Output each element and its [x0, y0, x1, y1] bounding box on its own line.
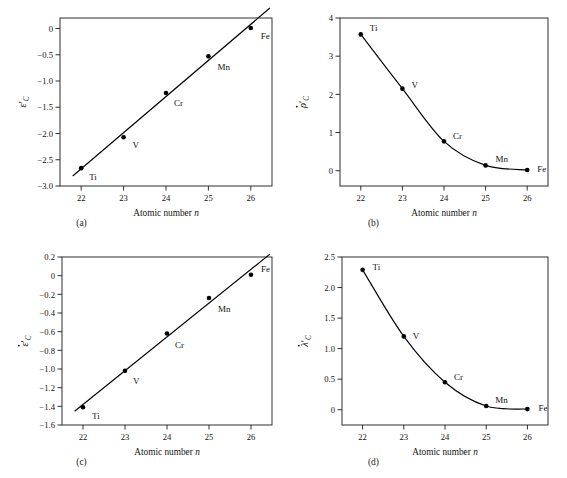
point-label: Cr	[174, 98, 183, 108]
x-tick-label: 23	[400, 432, 409, 442]
data-point	[402, 334, 407, 339]
data-point	[164, 91, 169, 96]
fit-line	[363, 270, 528, 409]
data-point	[249, 26, 254, 31]
point-label: Mn	[496, 154, 509, 164]
y-tick-label: 2	[329, 90, 333, 100]
caption-d: (d)	[232, 457, 515, 467]
data-point	[483, 163, 488, 168]
y-tick-label: −2.0	[37, 129, 53, 139]
y-tick-label: 0	[331, 405, 335, 415]
point-label: Cr	[453, 131, 462, 141]
y-tick-label: 0	[51, 271, 55, 281]
point-label: Ti	[92, 411, 100, 421]
data-point	[206, 54, 211, 59]
data-point	[525, 168, 530, 173]
x-tick-label: 23	[119, 193, 128, 203]
point-label: Cr	[454, 372, 463, 382]
y-tick-label: −1.2	[39, 383, 55, 393]
fit-line	[361, 34, 527, 170]
caption-b: (b)	[232, 218, 515, 228]
overdot-icon	[18, 345, 20, 347]
data-point	[359, 32, 364, 37]
x-axis-title: Atomic number n	[411, 208, 477, 218]
point-label: Fe	[538, 403, 547, 413]
y-tick-label: −2.5	[37, 155, 53, 165]
x-tick-label: 22	[79, 432, 88, 442]
y-tick-label: 2.5	[324, 252, 335, 262]
panel-d: 22232425262.52.01.51.00.50TiVCrMnFeAtomi…	[284, 239, 567, 478]
fit-line	[75, 254, 270, 411]
y-tick-label: 2.0	[324, 283, 335, 293]
x-axis-title: Atomic number n	[412, 447, 478, 457]
plot-a: 22232425260−0.5−1.0−1.5−2.0−2.5−3.0TiVCr…	[0, 0, 283, 239]
x-tick-label: 24	[441, 432, 450, 442]
y-tick-label: −0.8	[39, 346, 55, 356]
y-tick-label: −0.4	[39, 308, 55, 318]
data-point	[442, 139, 447, 144]
y-axis-title: ε′C	[18, 335, 33, 346]
svg-text:ε′C: ε′C	[19, 335, 33, 346]
x-tick-label: 22	[358, 432, 367, 442]
y-tick-label: 1.0	[324, 344, 335, 354]
data-point	[249, 272, 254, 277]
data-point	[81, 405, 86, 410]
point-label: V	[413, 331, 420, 341]
data-point	[484, 404, 489, 409]
panel-c: 22232425260.20−0.2−0.4−0.6−0.8−1.0−1.2−1…	[0, 239, 283, 478]
caption-c: (c)	[0, 457, 223, 467]
data-point	[400, 86, 405, 91]
x-tick-label: 26	[523, 432, 532, 442]
y-axis-title: λ′C	[298, 335, 313, 348]
point-label: V	[133, 140, 140, 150]
x-tick-label: 24	[440, 193, 449, 203]
point-label: Fe	[537, 164, 546, 174]
y-tick-label: 0.2	[44, 252, 55, 262]
data-point	[121, 135, 126, 140]
y-tick-label: 3	[329, 51, 333, 61]
point-label: Cr	[175, 340, 184, 350]
point-label: Fe	[261, 31, 270, 41]
y-tick-label: −1.4	[39, 402, 55, 412]
data-point	[360, 268, 365, 273]
x-tick-label: 22	[77, 193, 86, 203]
y-tick-label: −1.0	[37, 76, 53, 86]
point-label: V	[411, 80, 418, 90]
x-tick-label: 26	[247, 432, 256, 442]
point-label: Mn	[495, 395, 508, 405]
svg-text:ρ′C: ρ′C	[297, 96, 311, 109]
fit-line	[73, 8, 270, 176]
plot-d: 22232425262.52.01.51.00.50TiVCrMnFeAtomi…	[284, 239, 567, 478]
data-point	[123, 369, 128, 374]
y-tick-label: −1.0	[39, 364, 55, 374]
y-axis-title: ρ′C	[296, 96, 311, 109]
x-axis-title: Atomic number n	[133, 208, 199, 218]
figure-container: 22232425260−0.5−1.0−1.5−2.0−2.5−3.0TiVCr…	[0, 0, 567, 478]
data-point	[443, 380, 448, 385]
plot-c: 22232425260.20−0.2−0.4−0.6−0.8−1.0−1.2−1…	[0, 239, 283, 478]
x-tick-label: 22	[357, 193, 366, 203]
caption-a: (a)	[0, 218, 223, 228]
svg-text:ε′C: ε′C	[17, 96, 31, 107]
point-label: Mn	[218, 304, 231, 314]
y-tick-label: 4	[329, 13, 334, 23]
x-tick-label: 23	[398, 193, 407, 203]
y-tick-label: −3.0	[37, 181, 53, 191]
x-tick-label: 26	[523, 193, 532, 203]
point-label: Mn	[217, 62, 230, 72]
x-tick-label: 24	[163, 432, 172, 442]
y-tick-label: 1	[329, 128, 333, 138]
x-tick-label: 25	[204, 193, 213, 203]
y-tick-label: −0.6	[39, 327, 55, 337]
point-label: V	[133, 376, 140, 386]
point-label: Ti	[370, 23, 378, 33]
y-tick-label: 0.5	[324, 374, 335, 384]
panel-a: 22232425260−0.5−1.0−1.5−2.0−2.5−3.0TiVCr…	[0, 0, 283, 239]
y-tick-label: 1.5	[324, 313, 335, 323]
y-axis-title: ε′C	[17, 96, 31, 107]
svg-text:λ′C: λ′C	[299, 335, 313, 348]
overdot-icon	[296, 106, 298, 108]
y-tick-label: −0.2	[39, 290, 55, 300]
data-point	[165, 331, 170, 336]
plot-b: 222324252643210TiVCrMnFeAtomic number nρ…	[284, 0, 567, 239]
